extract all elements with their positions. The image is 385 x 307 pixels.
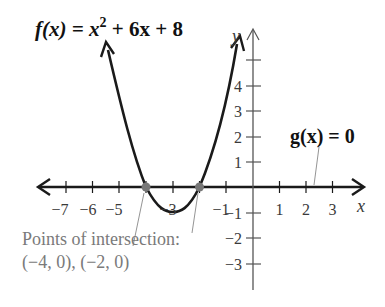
x-tick-label: 1 (276, 201, 284, 218)
y-tick-label: −3 (225, 256, 242, 273)
y-tick-label: 4 (234, 78, 242, 95)
annotation-line-2: (−4, 0), (−2, 0) (22, 252, 129, 273)
x-tick-label: −5 (105, 201, 122, 218)
y-tick-label: 1 (234, 154, 242, 171)
x-tick-label: −3 (159, 201, 176, 218)
y-tick-label: −2 (225, 230, 242, 247)
x-axis-label: x (356, 196, 365, 216)
f-function-label: f(x) = x2 + 6x + 8 (35, 15, 183, 41)
leader-line-g (314, 147, 319, 185)
y-tick-label: 3 (234, 103, 242, 120)
annotation-line-1: Points of intersection: (22, 229, 180, 249)
curve-left-arrow-icon (101, 42, 114, 57)
graph: −7 −6 −5 −3 −1 1 2 3 4 3 2 1 −1 −2 −3 x … (0, 0, 385, 307)
x-tick-label: 2 (302, 201, 310, 218)
intersection-point-2 (195, 183, 204, 192)
y-axis (246, 29, 261, 290)
x-tick-label: 3 (329, 201, 337, 218)
intersection-point-1 (142, 183, 151, 192)
y-tick-label: 2 (234, 129, 242, 146)
y-axis-label: y (230, 26, 240, 46)
x-tick-label: −6 (79, 201, 96, 218)
y-tick-label: −1 (225, 205, 242, 222)
x-tick-label: −7 (51, 201, 68, 218)
g-function-label: g(x) = 0 (290, 125, 355, 148)
